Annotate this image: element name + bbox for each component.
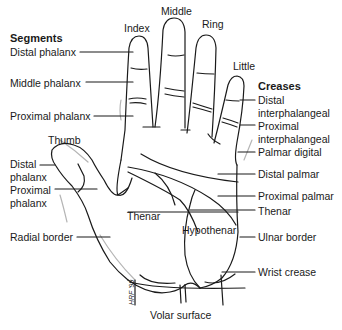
- segments-heading: Segments: [10, 32, 63, 44]
- label-distal-phalanx: Distal phalanx: [10, 46, 76, 58]
- label-proximal-ip: Proximal: [258, 120, 299, 132]
- label-proximal-palmar: Proximal palmar: [258, 190, 334, 202]
- label-proximal-ip-2: interphalangeal: [258, 133, 330, 145]
- label-little-finger: Little: [233, 60, 255, 72]
- hand-lines: [40, 18, 255, 305]
- label-distal-ip-2: interphalangeal: [258, 107, 330, 119]
- label-distal-palmar: Distal palmar: [258, 168, 319, 180]
- label-hypothenar-region: Hypothenar: [182, 224, 236, 236]
- label-distal-ip: Distal: [258, 94, 284, 106]
- label-palmar-digital: Palmar digital: [258, 146, 322, 158]
- label-radial-border: Radial border: [10, 231, 73, 243]
- hand-diagram: Index Middle Ring Little Thumb Segments …: [0, 0, 342, 330]
- label-thumb-distal: Distal: [10, 158, 36, 170]
- label-thenar-region: Thenar: [127, 210, 160, 222]
- label-thumb-distal-2: phalanx: [10, 171, 47, 183]
- caption-volar-surface: Volar surface: [150, 309, 211, 321]
- label-ulnar-border: Ulnar border: [258, 231, 316, 243]
- label-ring-finger: Ring: [202, 18, 224, 30]
- label-thumb-proximal: Proximal: [10, 184, 51, 196]
- label-proximal-phalanx: Proximal phalanx: [10, 110, 91, 122]
- label-index-finger: Index: [124, 22, 150, 34]
- label-wrist-crease: Wrist crease: [258, 266, 316, 278]
- label-middle-phalanx: Middle phalanx: [10, 77, 81, 89]
- label-thumb: Thumb: [48, 134, 81, 146]
- label-thenar-crease: Thenar: [258, 205, 291, 217]
- creases-heading: Creases: [258, 80, 301, 92]
- label-thumb-proximal-2: phalanx: [10, 197, 47, 209]
- label-middle-finger: Middle: [161, 5, 192, 17]
- artist-signature: HRF '99: [128, 280, 135, 305]
